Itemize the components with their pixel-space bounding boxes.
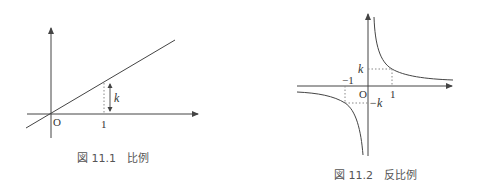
hyperbola-branch-positive <box>374 17 453 80</box>
figure-inverse-proportional: k −1 O 1 −k 図 11.2 反比例 <box>297 14 453 182</box>
diagram-canvas: k O 1 図 11.1 比例 k −1 O 1 −k 図 11.2 反比例 <box>0 0 480 187</box>
k-label: k <box>114 91 120 105</box>
figure-proportional: k O 1 図 11.1 比例 <box>26 28 198 165</box>
neg1-label: −1 <box>342 74 354 86</box>
figure-caption: 図 11.1 比例 <box>77 151 149 165</box>
hyperbola-branch-negative <box>297 92 363 155</box>
origin-label: O <box>53 116 61 128</box>
origin-label: O <box>359 88 367 100</box>
proportional-line <box>26 40 175 128</box>
figure-caption: 図 11.2 反比例 <box>334 168 417 182</box>
k-label: k <box>358 62 364 76</box>
x-tick-1: 1 <box>390 88 396 100</box>
neg-k-label: −k <box>369 96 383 110</box>
x-tick-1: 1 <box>101 118 107 130</box>
